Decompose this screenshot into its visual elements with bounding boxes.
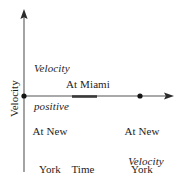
velocity-negative-annotation: Velocity negative — [116, 130, 176, 186]
velocity-positive-line-1: Velocity — [34, 62, 70, 75]
velocity-negative-line-1: Velocity — [116, 155, 176, 168]
y-axis-label: Velocity — [7, 47, 21, 117]
velocity-time-figure: Velocity Velocity positive At Miami At N… — [0, 0, 182, 186]
x-axis-label: Time — [62, 163, 104, 176]
at-new-york-start-line-1: At New — [24, 125, 76, 138]
at-miami-label: At Miami — [60, 78, 116, 91]
end-point-marker — [137, 93, 142, 98]
start-point-marker — [21, 93, 26, 98]
